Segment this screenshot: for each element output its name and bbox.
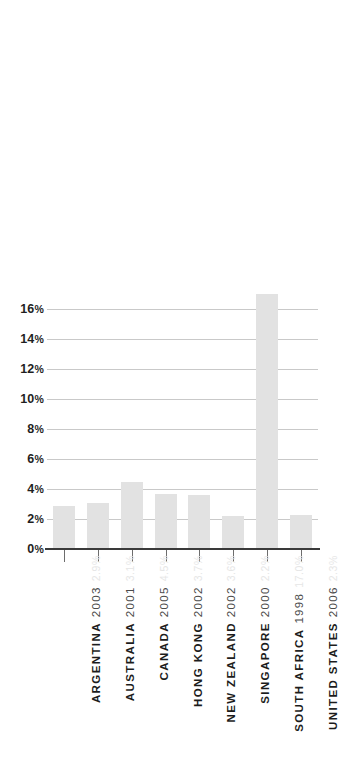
category-year: 2005 — [158, 586, 170, 617]
bar-value-label: 3.1% — [124, 555, 136, 581]
x-axis-category-label: 3.7%2002HONG KONG — [181, 549, 215, 780]
x-axis-category-label: 2.2%2000SINGAPORE — [248, 549, 282, 780]
category-name: UNITED STATES — [327, 622, 339, 730]
bar — [256, 294, 278, 549]
category-year: 2001 — [124, 586, 136, 617]
category-year: 2003 — [90, 586, 102, 617]
category-year: 2002 — [192, 586, 204, 617]
category-name: SOUTH AFRICA — [293, 629, 305, 732]
bar-value-label: 2.3% — [327, 555, 339, 581]
x-axis-category-label: 17.0%1998SOUTH AFRICA — [282, 549, 316, 780]
bar — [222, 516, 244, 549]
bars-group — [47, 0, 318, 549]
bar — [155, 494, 177, 550]
x-axis-labels: 2.9%2003ARGENTINA3.1%2001AUSTRALIA4.5%20… — [47, 549, 318, 780]
category-name: NEW ZEALAND — [225, 622, 237, 722]
x-axis-category-label: 3.6%2002NEW ZEALAND — [214, 549, 248, 780]
x-axis-category-label: 4.5%2005CANADA — [147, 549, 181, 780]
y-axis-tick-label: 4% — [0, 482, 44, 496]
bar-value-label: 2.9% — [90, 555, 102, 581]
bar-value-label: 3.6% — [225, 555, 237, 581]
category-year: 2002 — [225, 586, 237, 617]
bar — [290, 515, 312, 550]
bar-value-label: 3.7% — [192, 555, 204, 581]
category-name: CANADA — [158, 622, 170, 680]
category-year: 2006 — [327, 586, 339, 617]
bar-value-label: 4.5% — [158, 555, 170, 581]
bar — [121, 482, 143, 550]
bar — [87, 503, 109, 550]
category-name: HONG KONG — [192, 622, 204, 707]
y-axis-tick-label: 0% — [0, 542, 44, 556]
bar-value-label: 17.0% — [293, 555, 305, 588]
bar — [188, 495, 210, 549]
y-axis-tick-label: 16% — [0, 302, 44, 316]
bar-value-label: 2.2% — [259, 555, 271, 581]
category-year: 2000 — [259, 586, 271, 617]
y-axis-tick-label: 14% — [0, 332, 44, 346]
x-axis-category-label: 3.1%2001AUSTRALIA — [113, 549, 147, 780]
y-axis-tick-label: 8% — [0, 422, 44, 436]
category-name: ARGENTINA — [90, 622, 102, 703]
category-name: AUSTRALIA — [124, 622, 136, 701]
y-axis-tick-label: 2% — [0, 512, 44, 526]
category-name: SINGAPORE — [259, 622, 271, 704]
x-axis-category-label: 2.9%2003ARGENTINA — [79, 549, 113, 780]
category-year: 1998 — [293, 593, 305, 624]
x-axis-category-label: 2.3%2006UNITED STATES — [316, 549, 342, 780]
y-axis-tick-label: 12% — [0, 362, 44, 376]
y-axis-tick-label: 10% — [0, 392, 44, 406]
y-axis-tick-label: 6% — [0, 452, 44, 466]
bar — [53, 506, 75, 550]
